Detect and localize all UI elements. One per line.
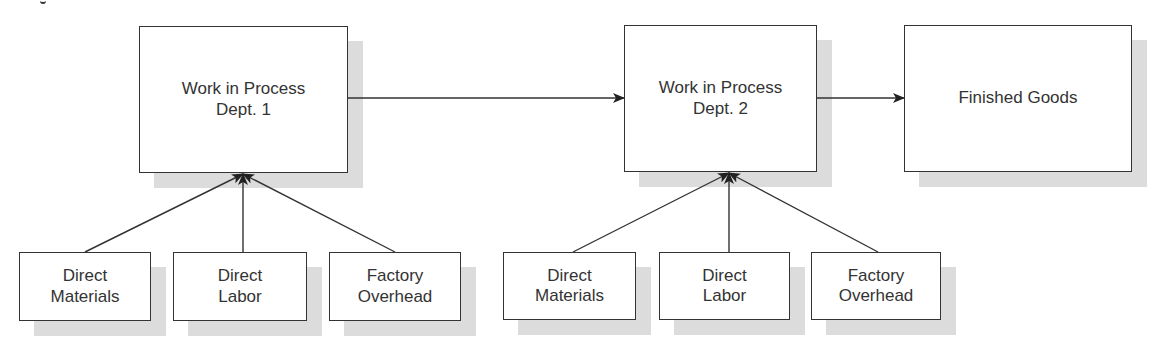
direct-materials-box-1: Direct Materials bbox=[19, 252, 151, 321]
finished-goods-box: Finished Goods bbox=[904, 25, 1132, 172]
wip-dept1-line2: Dept. 1 bbox=[216, 100, 271, 120]
input-line1: Direct bbox=[702, 266, 746, 286]
wip-dept1-line1: Work in Process bbox=[182, 79, 305, 99]
direct-labor-box-2: Direct Labor bbox=[659, 252, 790, 320]
finished-goods-label: Finished Goods bbox=[958, 88, 1077, 108]
direct-labor-box-1: Direct Labor bbox=[173, 252, 307, 321]
factory-overhead-box-1: Factory Overhead bbox=[329, 252, 461, 321]
factory-overhead-box-2: Factory Overhead bbox=[811, 252, 941, 320]
input-line2: Labor bbox=[218, 287, 261, 307]
input-line1: Factory bbox=[367, 266, 424, 286]
input-line2: Materials bbox=[51, 287, 120, 307]
wip-dept1-box: Work in Process Dept. 1 bbox=[139, 26, 348, 173]
input-line2: Labor bbox=[703, 286, 746, 306]
wip-dept2-line2: Dept. 2 bbox=[693, 99, 748, 119]
input-line2: Materials bbox=[535, 286, 604, 306]
wip-dept2-box: Work in Process Dept. 2 bbox=[624, 25, 817, 172]
input-line2: Overhead bbox=[839, 286, 914, 306]
wip-dept2-line1: Work in Process bbox=[659, 78, 782, 98]
input-line1: Direct bbox=[63, 266, 107, 286]
input-line1: Factory bbox=[848, 266, 905, 286]
input-line1: Direct bbox=[547, 266, 591, 286]
direct-materials-box-2: Direct Materials bbox=[503, 252, 636, 320]
input-line2: Overhead bbox=[358, 287, 433, 307]
input-line1: Direct bbox=[218, 266, 262, 286]
